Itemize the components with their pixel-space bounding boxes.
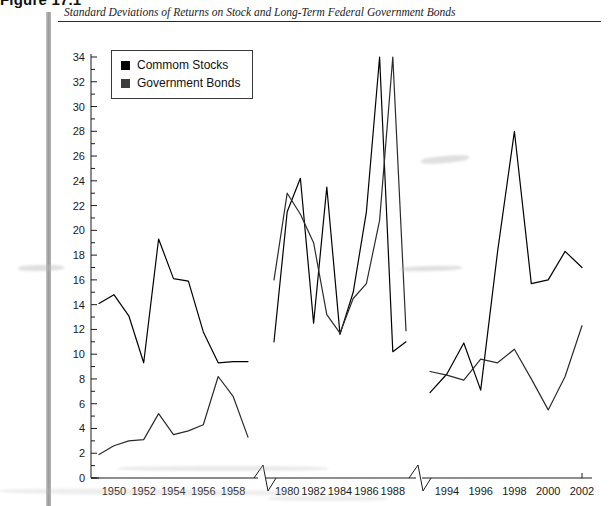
legend-item-stocks: Commom Stocks bbox=[121, 57, 240, 73]
y-tick-label: 2 bbox=[79, 447, 85, 459]
x-tick-label: 1954 bbox=[161, 485, 185, 495]
y-tick-label: 16 bbox=[73, 274, 85, 286]
x-tick-label: 1994 bbox=[435, 485, 459, 495]
x-tick-label: 1986 bbox=[354, 485, 378, 495]
y-tick-label: 34 bbox=[73, 51, 85, 63]
y-tick-label: 4 bbox=[79, 422, 85, 434]
left-margin-rule bbox=[46, 12, 51, 506]
x-tick-label: 1996 bbox=[468, 485, 492, 495]
y-tick-label: 12 bbox=[73, 323, 85, 335]
legend-label-bonds: Government Bonds bbox=[137, 76, 240, 90]
x-tick-label: 1950 bbox=[102, 485, 126, 495]
caption-divider bbox=[58, 21, 601, 22]
figure-root: Figure 17.1 Standard Deviations of Retur… bbox=[0, 0, 611, 506]
x-tick-label: 1958 bbox=[221, 485, 245, 495]
y-tick-label: 18 bbox=[73, 249, 85, 261]
y-tick-label: 24 bbox=[73, 175, 85, 187]
y-tick-label: 28 bbox=[73, 125, 85, 137]
legend-item-bonds: Government Bonds bbox=[121, 75, 240, 91]
data-series-group bbox=[99, 57, 582, 455]
y-tick-label: 30 bbox=[73, 101, 85, 113]
y-tick-label: 26 bbox=[73, 150, 85, 162]
legend-label-stocks: Commom Stocks bbox=[137, 58, 228, 72]
x-tick-label: 2000 bbox=[536, 485, 560, 495]
series-line-government-bonds bbox=[99, 377, 248, 455]
y-tick-label: 6 bbox=[79, 398, 85, 410]
legend-swatch-stocks-icon bbox=[121, 61, 130, 70]
x-tick-label: 1952 bbox=[131, 485, 155, 495]
chart-svg: 0246810121416182022242628303234 19501952… bbox=[58, 40, 603, 495]
figure-caption: Standard Deviations of Returns on Stock … bbox=[58, 6, 601, 18]
caption-block: Standard Deviations of Returns on Stock … bbox=[58, 6, 601, 22]
y-tick-label: 0 bbox=[79, 472, 85, 484]
legend-swatch-bonds-icon bbox=[121, 79, 130, 88]
x-tick-label: 2002 bbox=[570, 485, 594, 495]
y-tick-label: 8 bbox=[79, 373, 85, 385]
x-tick-label: 1980 bbox=[275, 485, 299, 495]
x-tick-label: 1988 bbox=[381, 485, 405, 495]
scan-artifact bbox=[268, 496, 388, 501]
x-tick-label: 1998 bbox=[502, 485, 526, 495]
series-line-government-bonds bbox=[430, 326, 582, 410]
x-tick-label: 1956 bbox=[191, 485, 215, 495]
series-line-commom-stocks bbox=[430, 131, 582, 392]
y-tick-label: 10 bbox=[73, 348, 85, 360]
chart-plot-area: 0246810121416182022242628303234 19501952… bbox=[58, 40, 603, 495]
y-tick-label: 22 bbox=[73, 200, 85, 212]
y-tick-label: 14 bbox=[73, 299, 85, 311]
series-line-commom-stocks bbox=[99, 239, 248, 363]
x-tick-label: 1984 bbox=[328, 485, 352, 495]
x-axis: 1950195219541956195819801982198419861988… bbox=[91, 465, 594, 495]
chart-legend: Commom Stocks Government Bonds bbox=[111, 50, 253, 99]
y-axis: 0246810121416182022242628303234 bbox=[73, 51, 97, 484]
y-tick-label: 32 bbox=[73, 76, 85, 88]
x-tick-label: 1982 bbox=[301, 485, 325, 495]
y-tick-label: 20 bbox=[73, 224, 85, 236]
